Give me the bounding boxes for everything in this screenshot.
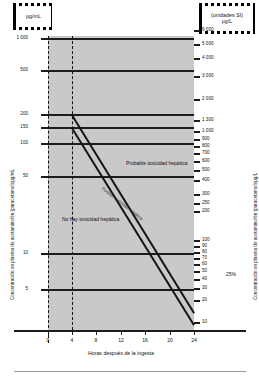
y-axis-left-tick bbox=[41, 38, 48, 40]
y-axis-right-tick-label: 900 bbox=[202, 136, 210, 141]
y-axis-right-tick bbox=[194, 194, 200, 196]
y-axis-right-tick bbox=[194, 322, 200, 324]
y-axis-right-tick-label: 100 bbox=[202, 237, 210, 242]
y-axis-right-tick-label: 700 bbox=[202, 150, 210, 155]
x-axis-tick-label: 20 bbox=[167, 337, 173, 343]
x-axis-tick-label: 16 bbox=[142, 337, 148, 343]
x-axis-tick-label: 0 bbox=[47, 337, 50, 343]
y-axis-left-tick-label: 10 bbox=[23, 250, 28, 255]
y-axis-right-tick-label: 30 bbox=[202, 285, 207, 290]
y-axis-right-tick bbox=[194, 271, 200, 273]
units-right-label-unit: µg/L bbox=[222, 19, 233, 24]
y-axis-right-tick-label: 90 bbox=[202, 243, 207, 248]
plot-area bbox=[48, 36, 194, 330]
y-axis-left-tick bbox=[41, 70, 48, 72]
y-axis-right-tick-label: 400 bbox=[202, 177, 210, 182]
annotation-probable-toxicity: Probable toxicidad hepática bbox=[126, 160, 187, 166]
y-axis-right-tick-label: 10 bbox=[202, 319, 207, 324]
gridline bbox=[48, 38, 194, 40]
x-axis-tick bbox=[170, 330, 171, 335]
y-axis-right-tick bbox=[194, 44, 200, 46]
y-axis-left-tick-label: 50 bbox=[23, 173, 28, 178]
y-axis-right-tick-label: 2 000 bbox=[202, 96, 214, 101]
y-axis-right-title: Concentración en plasma de acetaminofén … bbox=[253, 173, 258, 300]
y-axis-right-tick bbox=[194, 300, 200, 302]
y-axis-left-tick bbox=[41, 253, 48, 255]
y-axis-right-tick-label: 1 300 bbox=[202, 117, 214, 122]
y-axis-right-tick-label: 3 000 bbox=[202, 73, 214, 78]
y-axis-right-tick-label: 4 000 bbox=[202, 55, 214, 60]
y-axis-right-tick bbox=[194, 30, 200, 32]
y-axis-right-tick bbox=[194, 170, 200, 172]
y-axis-right-tick-label: 800 bbox=[202, 143, 210, 148]
x-axis-tick bbox=[96, 330, 97, 335]
y-axis-right-tick bbox=[194, 258, 200, 260]
x-axis-title: Horas después de la ingesta bbox=[48, 350, 194, 356]
gridline bbox=[48, 70, 194, 72]
y-axis-right-tick-label: 80 bbox=[202, 249, 207, 254]
y-axis-right-tick-label: 60 bbox=[202, 261, 207, 266]
y-axis-right-tick bbox=[194, 180, 200, 182]
y-axis-left-tick bbox=[41, 114, 48, 116]
gridline bbox=[48, 176, 194, 178]
y-axis-right-tick bbox=[194, 146, 200, 148]
y-axis-left-tick bbox=[41, 143, 48, 145]
y-axis-left-tick-label: 100 bbox=[20, 140, 28, 145]
y-axis-right-tick bbox=[194, 58, 200, 60]
y-axis-right-tick-label: 500 bbox=[202, 167, 210, 172]
y-axis-right-tick bbox=[194, 240, 200, 242]
y-axis-right: 6 0005 0004 0003 0002 0001 3001 00090080… bbox=[194, 36, 259, 330]
treatment-line-25-percent bbox=[71, 127, 195, 325]
four-hour-marker-line bbox=[48, 36, 49, 343]
units-left-label: µg/mL bbox=[26, 14, 41, 19]
gridline bbox=[48, 143, 194, 145]
y-axis-right-tick bbox=[194, 288, 200, 290]
x-axis-tick-label: 4 bbox=[71, 337, 74, 343]
y-axis-right-tick-label: 300 bbox=[202, 191, 210, 196]
x-axis-tick bbox=[72, 330, 73, 335]
y-axis-right-tick-label: 5 000 bbox=[202, 41, 214, 46]
y-axis-left-title: Concentración en plasma de acetaminofén … bbox=[10, 169, 15, 300]
y-axis-right-tick-label: 50 bbox=[202, 268, 207, 273]
y-axis-right-tick bbox=[194, 120, 200, 122]
x-axis-tick bbox=[194, 330, 195, 335]
units-box-left: µg/mL bbox=[13, 3, 54, 30]
y-axis-right-tick bbox=[194, 161, 200, 163]
y-axis-left-tick-label: 500 bbox=[20, 67, 28, 72]
y-axis-right-tick bbox=[194, 153, 200, 155]
gridline bbox=[48, 253, 194, 255]
y-axis-left-tick-label: 1 000 bbox=[17, 35, 29, 40]
x-axis-tick-label: 12 bbox=[118, 337, 124, 343]
y-axis-left-tick-label: 150 bbox=[20, 124, 28, 129]
y-axis-left-tick bbox=[41, 176, 48, 178]
y-axis-right-tick bbox=[194, 139, 200, 141]
x-axis-tick bbox=[145, 330, 146, 335]
y-axis-right-tick bbox=[194, 76, 200, 78]
y-axis-right-tick bbox=[194, 279, 200, 281]
y-axis-right-tick bbox=[194, 131, 200, 133]
y-axis-right-tick-label: 20 bbox=[202, 297, 207, 302]
y-axis-left-tick bbox=[41, 289, 48, 291]
y-axis-right-tick-label: 600 bbox=[202, 158, 210, 163]
y-axis-left-tick-label: 200 bbox=[20, 111, 28, 116]
annotation-25-percent: 25% bbox=[226, 271, 236, 277]
y-axis-right-tick-label: 1 000 bbox=[202, 128, 214, 133]
y-axis-right-tick bbox=[194, 252, 200, 254]
y-axis-left: 1 00050020015010050105 bbox=[0, 36, 48, 330]
y-axis-left-tick bbox=[41, 127, 48, 129]
annotation-no-toxicity: No hay toxicidad hepática bbox=[62, 216, 119, 222]
y-axis-right-tick bbox=[194, 211, 200, 213]
y-axis-right-tick-label: 6 000 bbox=[202, 27, 214, 32]
y-axis-right-tick-label: 70 bbox=[202, 255, 207, 260]
x-axis-tick bbox=[48, 330, 49, 335]
x-axis-tick-label: 24 bbox=[191, 337, 197, 343]
x-axis-tick-label: 8 bbox=[95, 337, 98, 343]
page-baseline-rule bbox=[14, 371, 246, 372]
y-axis-right-tick-label: 200 bbox=[202, 208, 210, 213]
y-axis-right-tick bbox=[194, 99, 200, 101]
y-axis-left-tick-label: 5 bbox=[25, 286, 28, 291]
x-axis-tick bbox=[121, 330, 122, 335]
four-hour-dashed-line bbox=[72, 36, 73, 330]
y-axis-right-tick-label: 250 bbox=[202, 200, 210, 205]
y-axis-right-tick bbox=[194, 246, 200, 248]
